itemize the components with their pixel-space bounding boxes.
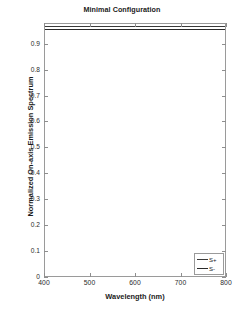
y-tick-mark [44,121,48,122]
x-tick-label: 800 [213,279,239,286]
y-tick-mark [44,44,48,45]
legend-line-swatch [197,268,208,269]
chart-title: Minimal Configuration [0,5,244,14]
y-tick-label: 0.1 [14,247,40,254]
x-tick-mark-top [44,23,45,27]
chart-figure: Minimal Configuration 00.10.20.30.40.50.… [0,0,244,324]
legend-item-s[interactable]: S- [196,264,222,273]
legend-label: S- [209,265,215,273]
x-tick-mark-top [90,23,91,27]
y-tick-mark-right [222,147,226,148]
y-tick-mark [44,173,48,174]
legend-item-s[interactable]: S+ [196,255,222,264]
chart-legend[interactable]: S+S- [194,253,224,275]
y-tick-mark [44,251,48,252]
x-tick-mark-top [226,23,227,27]
y-tick-mark [44,96,48,97]
y-tick-mark [44,225,48,226]
x-tick-mark [181,273,182,277]
x-tick-mark [44,273,45,277]
y-tick-mark [44,70,48,71]
series-line-s [45,29,225,30]
x-tick-label: 400 [31,279,57,286]
x-tick-label: 600 [122,279,148,286]
y-tick-mark-right [222,173,226,174]
y-tick-mark-right [222,251,226,252]
x-tick-mark-top [181,23,182,27]
x-tick-mark [135,273,136,277]
y-tick-mark-right [222,199,226,200]
x-tick-label: 700 [168,279,194,286]
y-tick-mark-right [222,70,226,71]
x-tick-mark-top [135,23,136,27]
y-tick-mark-right [222,277,226,278]
y-tick-mark [44,147,48,148]
y-tick-mark-right [222,96,226,97]
y-tick-mark-right [222,44,226,45]
legend-label: S+ [209,256,217,264]
x-tick-mark [90,273,91,277]
y-tick-mark-right [222,121,226,122]
y-axis-label: Normalized On-axis Emission Spectrum [26,47,35,247]
y-tick-mark [44,277,48,278]
y-tick-mark-right [222,225,226,226]
x-tick-mark [226,273,227,277]
y-tick-mark [44,199,48,200]
x-tick-label: 500 [77,279,103,286]
x-axis-label: Wavelength (nm) [44,292,226,301]
plot-area [44,23,226,277]
legend-line-swatch [197,259,208,260]
plot-series-layer [45,24,225,276]
